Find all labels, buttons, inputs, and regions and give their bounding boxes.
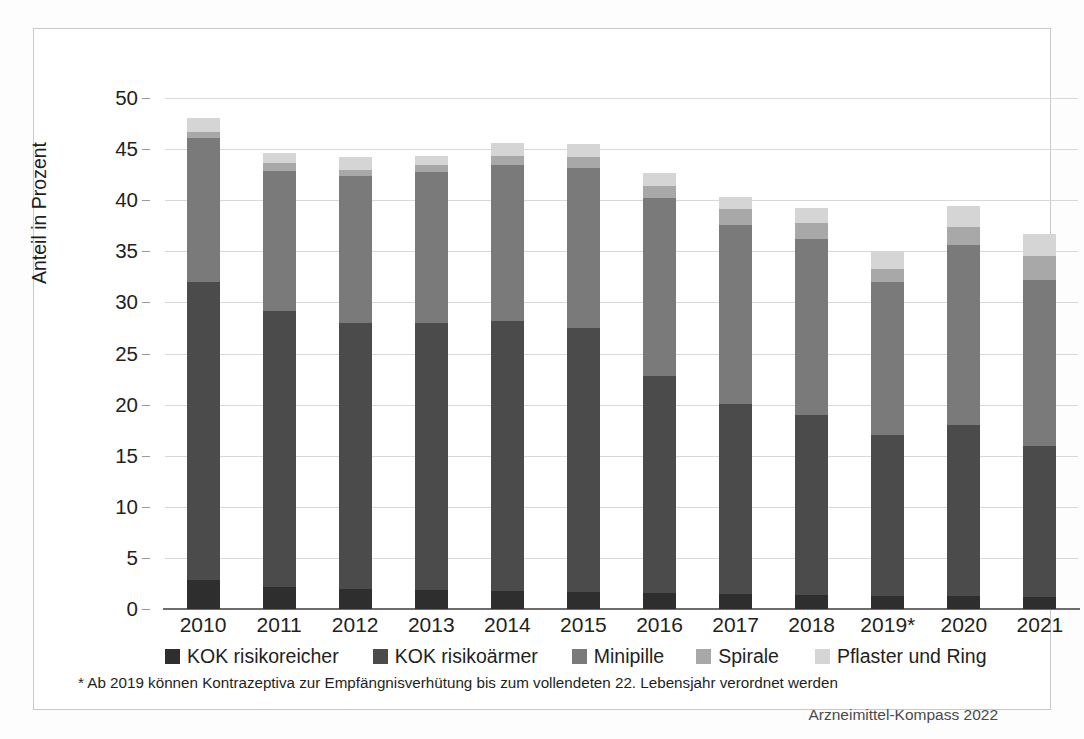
legend-item-label: KOK risikoärmer — [395, 645, 538, 668]
x-axis-tick-label: 2012 — [317, 613, 393, 637]
legend-item[interactable]: KOK risikoreicher — [165, 645, 339, 668]
bar-segment — [795, 239, 828, 415]
bar-segment — [339, 157, 372, 169]
bar-segment — [871, 269, 904, 282]
bar-segment — [1023, 280, 1056, 446]
legend-item[interactable]: Minipille — [572, 645, 664, 668]
bar-segment — [339, 176, 372, 323]
x-axis-tick-label: 2010 — [165, 613, 241, 637]
bar-segment — [871, 282, 904, 435]
bar-stack — [187, 118, 220, 609]
chart-frame: Anteil in Prozent 05101520253035404550 2… — [33, 28, 1051, 710]
y-axis-tick-mark — [142, 98, 150, 99]
legend-item[interactable]: KOK risikoärmer — [373, 645, 538, 668]
bar-segment — [263, 163, 296, 170]
bar-stack — [339, 157, 372, 609]
bar-segment — [567, 168, 600, 328]
bar-stack — [643, 173, 676, 609]
y-axis-tick-label: 30 — [48, 292, 138, 312]
bar-segment — [263, 171, 296, 311]
y-axis-tick-mark — [142, 507, 150, 508]
bar-segment — [187, 118, 220, 131]
bar-segment — [491, 321, 524, 591]
y-axis-tick-label: 0 — [48, 599, 138, 619]
bar-segment — [415, 172, 448, 323]
legend-swatch-icon — [373, 649, 388, 664]
x-axis-baseline — [163, 608, 1080, 610]
y-axis-tick-label: 20 — [48, 395, 138, 415]
y-axis-tick-mark — [142, 609, 150, 610]
gridline — [165, 354, 1078, 355]
bar-segment — [795, 595, 828, 609]
y-axis-tick-label: 10 — [48, 497, 138, 517]
bar-stack — [567, 144, 600, 609]
bar-segment — [187, 282, 220, 580]
bar-stack — [719, 197, 752, 609]
bar-segment — [719, 594, 752, 609]
plot-area — [165, 98, 1078, 609]
bar-segment — [1023, 597, 1056, 609]
bar-stack — [415, 156, 448, 609]
gridline — [165, 98, 1078, 99]
y-axis-tick-mark — [142, 558, 150, 559]
gridline — [165, 558, 1078, 559]
bar-stack — [795, 208, 828, 609]
gridline — [165, 251, 1078, 252]
bar-segment — [871, 596, 904, 609]
bar-segment — [947, 206, 980, 226]
gridline — [165, 200, 1078, 201]
x-axis-tick-label: 2021 — [1002, 613, 1078, 637]
y-axis-tick-label: 45 — [48, 139, 138, 159]
bar-segment — [491, 165, 524, 320]
chart-source: Arzneimittel-Kompass 2022 — [808, 706, 998, 724]
bar-segment — [719, 225, 752, 404]
legend-item[interactable]: Pflaster und Ring — [815, 645, 987, 668]
legend-swatch-icon — [165, 649, 180, 664]
y-axis-tick-mark — [142, 200, 150, 201]
x-axis-tick-label: 2020 — [926, 613, 1002, 637]
gridline — [165, 405, 1078, 406]
bar-segment — [1023, 256, 1056, 280]
bar-segment — [643, 376, 676, 593]
legend-swatch-icon — [815, 649, 830, 664]
bar-segment — [871, 251, 904, 268]
x-axis-tick-label: 2013 — [393, 613, 469, 637]
bar-segment — [567, 328, 600, 592]
legend-item-label: Minipille — [594, 645, 664, 668]
bar-segment — [871, 435, 904, 595]
gridline — [165, 149, 1078, 150]
bar-segment — [643, 198, 676, 376]
y-axis-tick-mark — [142, 302, 150, 303]
bar-segment — [795, 415, 828, 595]
bar-segment — [719, 209, 752, 224]
x-axis-tick-label: 2014 — [469, 613, 545, 637]
bar-stack — [947, 206, 980, 609]
bar-segment — [719, 197, 752, 209]
bar-segment — [263, 311, 296, 587]
legend-item[interactable]: Spirale — [696, 645, 779, 668]
bar-segment — [947, 245, 980, 425]
bar-segment — [263, 153, 296, 163]
y-axis-tick-mark — [142, 354, 150, 355]
x-axis-tick-label: 2018 — [774, 613, 850, 637]
bar-segment — [795, 223, 828, 239]
gridline — [165, 302, 1078, 303]
bar-segment — [643, 593, 676, 609]
legend-swatch-icon — [572, 649, 587, 664]
bar-segment — [567, 592, 600, 609]
chart-footnote: * Ab 2019 können Kontrazeptiva zur Empfä… — [78, 674, 838, 691]
bar-segment — [719, 404, 752, 594]
chart-figure: Anteil in Prozent 05101520253035404550 2… — [0, 0, 1084, 739]
bar-segment — [263, 587, 296, 609]
x-axis-tick-label: 2015 — [545, 613, 621, 637]
bar-segment — [947, 227, 980, 245]
y-axis-tick-label: 25 — [48, 344, 138, 364]
bar-stack — [491, 143, 524, 609]
legend-item-label: Pflaster und Ring — [837, 645, 987, 668]
bar-segment — [415, 323, 448, 590]
y-axis-tick-labels: 05101520253035404550 — [34, 98, 154, 609]
x-axis-tick-labels: 2010201120122013201420152016201720182019… — [165, 613, 1078, 643]
y-axis-tick-label: 15 — [48, 446, 138, 466]
x-axis-tick-label: 2019* — [850, 613, 926, 637]
bar-segment — [947, 425, 980, 596]
